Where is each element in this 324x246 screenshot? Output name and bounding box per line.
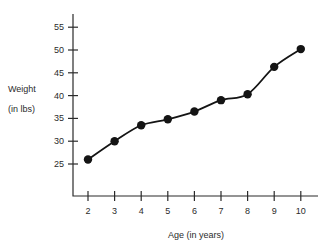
y-axis-label-line2: (in lbs)	[8, 104, 35, 114]
x-tick-label: 4	[139, 206, 144, 216]
y-tick-label: 30	[54, 136, 64, 146]
y-tick-label: 50	[54, 45, 64, 55]
x-tick-label: 10	[296, 206, 306, 216]
y-tick-label: 35	[54, 113, 64, 123]
x-tick-label: 2	[85, 206, 90, 216]
x-tick-label: 5	[165, 206, 170, 216]
chart-container: Weight (in lbs) 25 30 35 40 45 50 55	[0, 0, 324, 246]
data-point	[190, 107, 198, 115]
series-markers	[84, 45, 305, 164]
y-tick-label: 45	[54, 68, 64, 78]
data-point	[164, 115, 172, 123]
x-axis-ticks: 2 3 4 5 6 7 8 9 10	[85, 191, 305, 216]
data-point	[110, 137, 118, 145]
y-axis-label-line1: Weight	[8, 84, 36, 94]
x-tick-label: 8	[245, 206, 250, 216]
y-tick-label: 25	[54, 159, 64, 169]
data-point	[84, 155, 92, 163]
data-point	[270, 63, 278, 71]
data-point	[137, 121, 145, 129]
y-axis-ticks: 25 30 35 40 45 50 55	[54, 22, 78, 169]
x-tick-label: 7	[218, 206, 223, 216]
axis-lines	[73, 14, 318, 196]
y-tick-label: 40	[54, 91, 64, 101]
line-chart: Weight (in lbs) 25 30 35 40 45 50 55	[0, 0, 324, 246]
x-tick-label: 3	[112, 206, 117, 216]
y-tick-label: 55	[54, 22, 64, 32]
data-point	[217, 96, 225, 104]
x-axis-label: Age (in years)	[168, 230, 224, 240]
data-point	[297, 45, 305, 53]
data-point	[243, 90, 251, 98]
series-line	[88, 49, 301, 159]
x-tick-label: 6	[192, 206, 197, 216]
x-tick-label: 9	[272, 206, 277, 216]
